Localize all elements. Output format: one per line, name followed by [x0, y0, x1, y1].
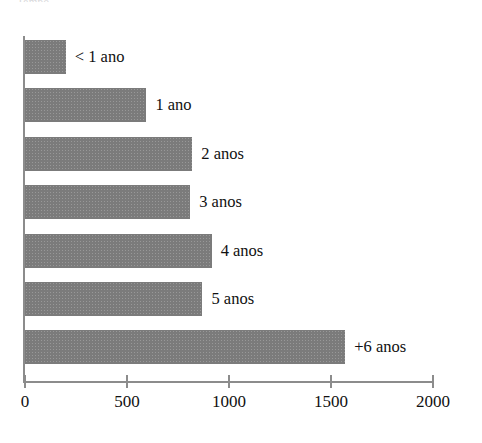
bar-row: 3 anos: [25, 185, 410, 219]
x-tick-mark: [330, 375, 332, 388]
x-tick-mark: [228, 375, 230, 388]
x-tick-label: 2000: [416, 392, 450, 412]
bar-value-label: 2 anos: [201, 144, 244, 164]
bar-value-label: 3 anos: [199, 192, 242, 212]
bar-value-label: < 1 ano: [75, 47, 125, 67]
bar: [25, 40, 66, 74]
bar-value-label: 4 anos: [221, 241, 264, 261]
plot-area: < 1 ano1 ano2 anos3 anos4 anos5 anos+6 a…: [0, 0, 482, 443]
x-tick-label: 500: [114, 392, 140, 412]
x-tick-mark: [432, 375, 434, 388]
bar-value-label: 5 anos: [211, 289, 254, 309]
bar-row: 1 ano: [25, 88, 366, 122]
bar-chart: Tempo < 1 ano1 ano2 anos3 anos4 anos5 an…: [0, 0, 482, 443]
bar: [25, 330, 345, 364]
bar-row: 4 anos: [25, 234, 432, 268]
x-tick-mark: [24, 375, 26, 388]
bar: [25, 137, 192, 171]
bar-row: +6 anos: [25, 330, 482, 364]
bar-row: 2 anos: [25, 137, 412, 171]
bar-value-label: +6 anos: [354, 337, 406, 357]
bar-value-label: 1 ano: [155, 95, 191, 115]
bar: [25, 88, 146, 122]
x-tick-label: 1000: [212, 392, 246, 412]
x-tick-label: 0: [21, 392, 30, 412]
bar: [25, 234, 212, 268]
bar-row: < 1 ano: [25, 40, 286, 74]
x-tick-label: 1500: [314, 392, 348, 412]
bar: [25, 282, 202, 316]
x-tick-mark: [126, 375, 128, 388]
bar: [25, 185, 190, 219]
bar-row: 5 anos: [25, 282, 422, 316]
